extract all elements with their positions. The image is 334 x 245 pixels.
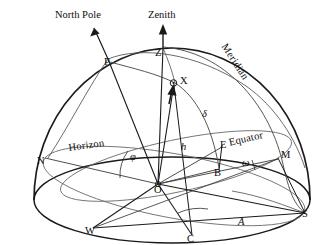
north-pole-label: North Pole xyxy=(55,10,101,21)
line-O-to-Z xyxy=(158,48,163,184)
point-label-P: P xyxy=(104,57,110,68)
line-O-to-P xyxy=(108,59,158,184)
vertical-circle-through-star xyxy=(163,48,175,83)
zenith-arrow xyxy=(159,24,167,48)
angle-label-h: h xyxy=(181,142,186,153)
point-label-E: E xyxy=(220,140,226,151)
angle-label-omega: ω xyxy=(242,158,249,169)
star-pointer-arrow xyxy=(167,85,176,104)
point-label-Z: Z xyxy=(155,48,161,59)
line-O-to-X xyxy=(158,84,174,184)
point-label-X: X xyxy=(180,76,188,87)
line-O-to-S xyxy=(158,184,305,213)
celestial-sphere-drawing xyxy=(0,0,334,245)
celestial-sphere-figure: North Pole Zenith Meridian Equator Horiz… xyxy=(0,0,334,245)
zenith-label: Zenith xyxy=(148,10,175,21)
line-O-to-W xyxy=(93,184,158,228)
angle-label-delta: δ xyxy=(202,109,207,120)
arc-phi xyxy=(120,151,128,178)
point-label-N: N xyxy=(37,156,45,167)
base-chords xyxy=(93,159,305,228)
point-label-B: B xyxy=(214,168,221,179)
point-label-O: O xyxy=(154,185,162,196)
point-label-M: M xyxy=(281,150,290,161)
point-label-W: W xyxy=(85,226,95,237)
point-label-S: S xyxy=(302,209,308,220)
arc-azimuth xyxy=(178,208,208,213)
angle-label-phi: φ xyxy=(130,152,136,163)
angle-arcs xyxy=(120,151,255,213)
north-pole-arrow xyxy=(90,28,108,59)
point-label-C: C xyxy=(187,234,194,245)
angle-label-azimuth: A xyxy=(238,217,244,228)
line-O-to-N xyxy=(45,158,158,184)
chord-W-to-S xyxy=(93,213,305,228)
